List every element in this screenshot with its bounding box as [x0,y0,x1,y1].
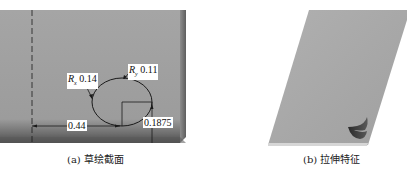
ry-subscript: y [135,71,138,77]
horizontal-dimension-label: 0.44 [67,120,87,131]
caption-a: (a) 草绘截面 [67,151,124,166]
rx-dimension-label: Rx 0.14 [67,73,98,89]
rx-subscript: x [74,80,77,86]
caption-b: (b) 拉伸特征 [303,151,360,166]
ry-dimension-label: Ry 0.11 [128,64,158,80]
panel-b-extrude-feature [220,0,407,150]
ry-value: 0.11 [140,64,157,75]
extruded-plate [220,0,407,150]
rx-value: 0.14 [79,73,97,84]
vertical-dimension-label: 0.1875 [143,117,173,128]
panel-a-sketch-section: Rx 0.14 Ry 0.11 0.44 0.1875 [0,0,200,150]
